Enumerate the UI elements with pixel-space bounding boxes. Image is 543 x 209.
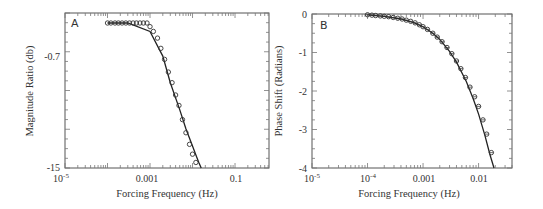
panel-b-plot-area [365, 13, 494, 168]
panel-b-label: B [320, 19, 328, 32]
panel-a-plot-area [105, 21, 201, 168]
panel-b-chart: B 0 -1 -2 -3 -4 10-5 10-4 0.001 0.01 For… [273, 9, 512, 200]
panel-a-xtick-label: 10-5 [53, 172, 69, 184]
panel-a-label: A [71, 17, 79, 30]
panel-b-xtick-label: 10-5 [304, 172, 320, 184]
panel-a-tick-marks [65, 13, 269, 168]
panel-a-xtick-label: 0.1 [230, 173, 243, 184]
panel-a-y-axis-title: Magnitude Ratio (db) [24, 45, 36, 136]
panel-b-ytick-label: -1 [299, 47, 307, 58]
data-point-marker [187, 142, 191, 146]
panel-b-y-axis-title: Phase Shift (Radians) [273, 45, 285, 136]
panel-a-ytick-label: -15 [47, 162, 60, 173]
panel-a-ytick-label: -0.7 [44, 51, 60, 62]
panel-b-frame [312, 14, 512, 168]
model-curve [368, 15, 495, 168]
panel-a-chart: A -0.7 -15 10-5 0.001 0.1 Forcing Freque… [24, 13, 269, 200]
data-point-marker [190, 152, 194, 156]
panel-b-x-axis-title: Forcing Frequency (Hz) [358, 188, 460, 200]
data-point-marker [148, 24, 152, 28]
panel-a-xtick-label: 0.001 [136, 173, 159, 184]
panel-b-xtick-label: 0.001 [413, 173, 436, 184]
panel-b-tick-marks [312, 14, 512, 168]
panel-a-frame [65, 13, 269, 168]
model-curve [108, 23, 202, 168]
data-point-marker [155, 36, 159, 40]
figure: A -0.7 -15 10-5 0.001 0.1 Forcing Freque… [0, 0, 543, 209]
panel-b-ytick-label: -2 [299, 86, 307, 97]
panel-b-xtick-label: 0.01 [470, 173, 488, 184]
panel-b-xtick-label: 10-4 [360, 172, 376, 184]
panel-b-ytick-label: 0 [302, 9, 307, 20]
panel-b-ytick-label: -3 [299, 124, 307, 135]
data-point-marker [151, 29, 155, 33]
panel-a-x-axis-title: Forcing Frequency (Hz) [116, 188, 218, 200]
data-point-marker [194, 160, 198, 164]
